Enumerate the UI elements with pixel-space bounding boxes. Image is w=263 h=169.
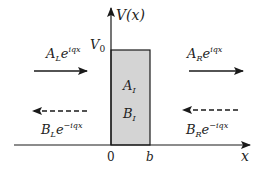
left-incident-label: ALeiqx	[45, 45, 81, 63]
y-axis-label: V(x)	[116, 7, 145, 23]
x-axis-label: x	[241, 148, 249, 164]
x-tick-b: b	[146, 150, 154, 164]
barrier-height-label: V0	[90, 37, 105, 54]
x-tick-0: 0	[107, 150, 115, 164]
right-transmitted-label: AReiqx	[186, 45, 223, 63]
right-incoming-label: BRe−iqx	[185, 121, 229, 139]
left-reflected-label: BLe−iqx	[40, 121, 83, 139]
barrier-diagram: V(x) x V0 0 b AI BI ALeiqx BLe−iqx AReiq…	[0, 0, 263, 169]
potential-barrier	[111, 50, 150, 145]
